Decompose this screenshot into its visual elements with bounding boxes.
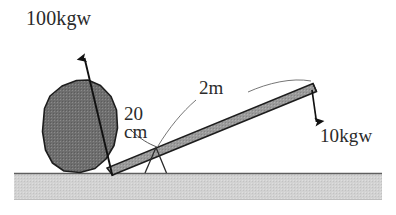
load-force-label: 100kgw	[26, 8, 91, 28]
effort-arm-label: 20cm	[124, 104, 147, 142]
ground-strip	[14, 173, 382, 200]
leader-line-2m	[158, 80, 311, 146]
lever-length-label: 2m	[199, 78, 223, 97]
effort-force-label: 10kgw	[320, 126, 372, 145]
effort-arm-unit: cm	[124, 122, 147, 141]
downward-arrow-10kgw	[312, 90, 317, 122]
boulder-polygon	[43, 80, 118, 173]
diagram-canvas	[0, 0, 396, 215]
physics-lever-diagram: 100kgw 2m 20cm 10kgw	[0, 0, 396, 215]
